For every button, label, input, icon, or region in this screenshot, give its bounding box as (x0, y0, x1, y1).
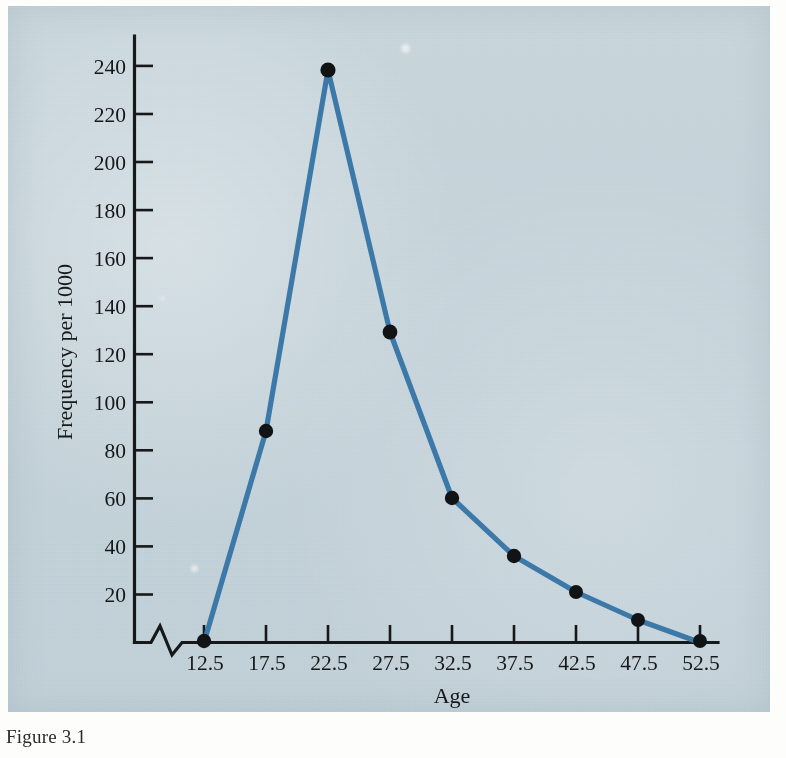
x-axis-tick-labels: 12.5 17.5 22.5 27.5 32.5 37.5 42.5 47.5 … (186, 651, 720, 675)
y-tick-label: 80 (105, 439, 127, 463)
y-tick-label: 240 (94, 55, 126, 79)
y-axis-ticks (135, 66, 153, 595)
x-tick-label: 47.5 (620, 651, 658, 675)
y-tick-label: 100 (94, 391, 126, 415)
data-point-markers (197, 62, 707, 648)
figure-page: 20 40 60 80 100 120 140 160 180 200 220 … (0, 0, 786, 758)
data-point (320, 62, 335, 77)
y-tick-label: 60 (105, 487, 127, 511)
x-axis-ticks (204, 625, 700, 642)
figure-caption: Figure 3.1 (6, 726, 126, 752)
y-tick-label: 20 (105, 583, 127, 607)
data-point (569, 585, 583, 599)
y-tick-label: 140 (94, 295, 126, 319)
data-point (445, 491, 459, 505)
x-tick-label: 42.5 (558, 651, 596, 675)
frequency-polygon-chart: 20 40 60 80 100 120 140 160 180 200 220 … (0, 0, 786, 758)
data-point (383, 325, 398, 340)
x-tick-label: 27.5 (372, 651, 410, 675)
x-tick-label: 52.5 (682, 651, 720, 675)
data-point (693, 634, 707, 648)
x-tick-label: 32.5 (434, 651, 472, 675)
y-tick-label: 160 (94, 247, 126, 271)
x-tick-label: 37.5 (496, 651, 534, 675)
y-tick-label: 220 (94, 103, 126, 127)
y-axis-tick-labels: 20 40 60 80 100 120 140 160 180 200 220 … (94, 55, 126, 607)
y-tick-label: 120 (94, 343, 126, 367)
data-point (631, 613, 645, 627)
y-tick-label: 180 (94, 199, 126, 223)
data-point (507, 549, 521, 563)
x-tick-label: 12.5 (186, 651, 224, 675)
y-axis-title: Frequency per 1000 (52, 264, 77, 440)
data-point (197, 634, 211, 648)
x-tick-label: 17.5 (248, 651, 286, 675)
x-axis-title: Age (434, 683, 471, 708)
frequency-polygon-line (204, 70, 700, 643)
y-tick-label: 40 (105, 535, 127, 559)
data-point (259, 424, 273, 438)
x-tick-label: 22.5 (310, 651, 348, 675)
y-tick-label: 200 (94, 151, 126, 175)
